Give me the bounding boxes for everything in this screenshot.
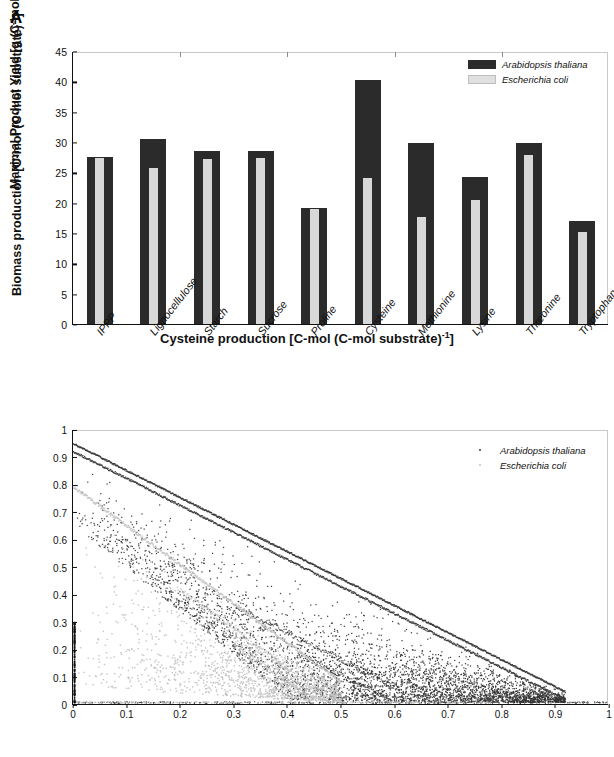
bar-ecoli	[255, 157, 266, 324]
figure-container: A Maximal Product Yield [g (C-mol substr…	[0, 0, 614, 757]
legend-swatch-light-icon	[468, 75, 496, 84]
panel-b-x-tick-label: 0.4	[280, 704, 294, 720]
panel-b-x-tick-label: 0.7	[441, 704, 455, 720]
legend-row: Escherichia coli	[468, 73, 588, 86]
panel-b-x-tick-label: 0.1	[120, 704, 134, 720]
panel-b-y-axis-title: Biomass production [C-mol (C-mol substra…	[8, 13, 24, 296]
legend-row: Arabidopsis thaliana	[468, 58, 588, 71]
panel-a-y-tick-label: 5	[61, 289, 73, 301]
legend-row: Escherichia coli	[466, 459, 586, 472]
bar-group	[569, 52, 595, 324]
panel-a-y-tick-label: 10	[55, 258, 73, 270]
legend-swatch-dark-icon	[468, 60, 496, 69]
bar-group	[462, 52, 488, 324]
panel-b-y-tick-label: 0.3	[53, 617, 73, 628]
panel-b-y-tick-label: 1	[61, 425, 73, 436]
bar-group	[87, 52, 113, 324]
panel-b-y-tick-label: 0.4	[53, 590, 73, 601]
bar-ecoli	[148, 167, 159, 324]
panel-b-x-tick-label: 0.6	[388, 704, 402, 720]
legend-label: Arabidopsis thaliana	[500, 444, 586, 457]
bar-group	[355, 52, 381, 324]
bar-ecoli	[470, 199, 481, 324]
panel-b-x-tick-label: 0.8	[495, 704, 509, 720]
panel-b-y-tick-label: 0.6	[53, 535, 73, 546]
panel-a-y-tick-label: 40	[55, 76, 73, 88]
legend-dot-dark-icon	[466, 446, 494, 455]
bar-group	[140, 52, 166, 324]
panel-b-y-tick-label: 0.2	[53, 645, 73, 656]
panel-b-y-tick-label: 0.9	[53, 452, 73, 463]
panel-a-y-tick-label: 20	[55, 198, 73, 210]
panel-b-y-tick-label: 0.8	[53, 480, 73, 491]
panel-b-y-axis-title-text: Biomass production [C-mol (C-mol substra…	[10, 25, 24, 296]
legend-dot-light-icon	[466, 461, 494, 470]
panel-b-x-tick-label: 0.9	[548, 704, 562, 720]
bar-group	[301, 52, 327, 324]
bar-ecoli	[577, 231, 588, 324]
bar-ecoli	[202, 158, 213, 324]
bar-group	[408, 52, 434, 324]
panel-b-y-axis-title-sup: -1	[8, 18, 18, 26]
panel-a-plot-area: 051015202530354045 IPPPLignocelluloseSta…	[72, 52, 608, 325]
panel-a-y-tick-label: 15	[55, 228, 73, 240]
panel-a-y-tick-label: 30	[55, 137, 73, 149]
legend-label: Escherichia coli	[500, 459, 566, 472]
panel-a-y-tick-label: 35	[55, 107, 73, 119]
panel-a-bars-layer	[73, 52, 608, 324]
bar-ecoli	[309, 208, 320, 324]
bar-ecoli	[523, 154, 534, 324]
panel-a-y-tick-label: 45	[55, 46, 73, 58]
panel-b-x-tick-label: 1	[606, 704, 612, 720]
bar-group	[516, 52, 542, 324]
panel-b-x-axis-title-close: ]	[450, 331, 454, 346]
panel-b-legend: Arabidopsis thalianaEscherichia coli	[466, 444, 586, 474]
legend-label: Arabidopsis thaliana	[502, 58, 588, 71]
panel-b-y-tick-label: 0.5	[53, 562, 73, 573]
panel-b-x-tick-label: 0.3	[227, 704, 241, 720]
panel-b-x-tick-label: 0.5	[334, 704, 348, 720]
panel-b-y-axis-title-close: ]	[10, 13, 24, 17]
panel-b-y-tick-label: 0.7	[53, 507, 73, 518]
bar-ecoli	[94, 157, 105, 324]
panel-a-legend: Arabidopsis thalianaEscherichia coli	[468, 58, 588, 88]
panel-b-y-tick-label: 0.1	[53, 672, 73, 683]
bar-ecoli	[416, 216, 427, 324]
legend-label: Escherichia coli	[502, 73, 568, 86]
panel-b-x-axis-title-sup: -1	[442, 330, 450, 340]
bar-ecoli	[362, 177, 373, 324]
panel-b-x-axis-title: Cysteine production [C-mol (C-mol substr…	[0, 330, 614, 346]
bar-group	[248, 52, 274, 324]
panel-b-x-tick-label: 0	[70, 704, 76, 720]
panel-a-y-tick-label: 25	[55, 167, 73, 179]
panel-b-x-tick-label: 0.2	[173, 704, 187, 720]
legend-row: Arabidopsis thaliana	[466, 444, 586, 457]
panel-b-x-axis-title-text: Cysteine production [C-mol (C-mol substr…	[160, 331, 442, 346]
